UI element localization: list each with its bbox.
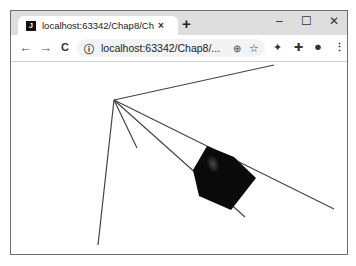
dark-polyhedron <box>193 146 256 210</box>
ray-line <box>114 65 274 100</box>
ray-line <box>114 100 137 148</box>
ray-line <box>98 100 114 245</box>
webgl-scene <box>0 0 356 266</box>
